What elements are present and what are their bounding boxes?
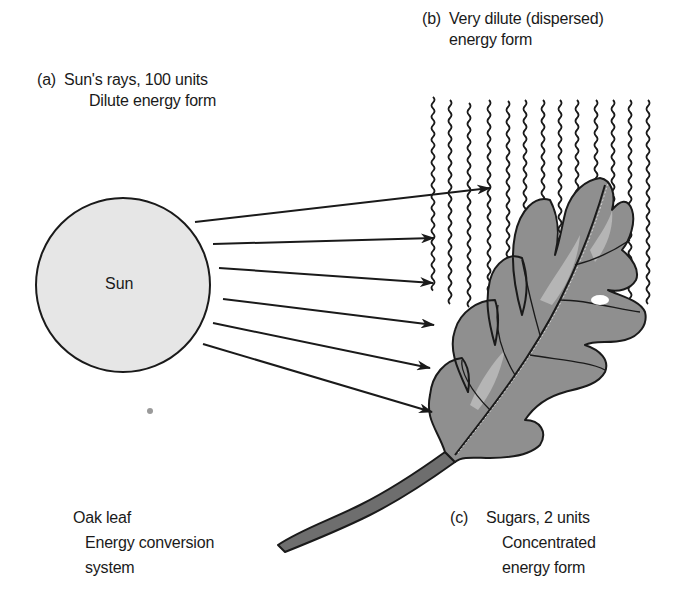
label-oak-line2: Energy conversion	[73, 530, 214, 555]
label-a-tag: (a)	[37, 69, 64, 90]
oak-leaf-illustration	[278, 178, 646, 552]
label-c-line2: Concentrated	[450, 530, 596, 555]
energy-diagram: Sun (b)Very dilute (dispersed) energy fo…	[0, 0, 692, 604]
label-c-line1: Sugars, 2 units	[486, 509, 590, 526]
label-c-line3: energy form	[450, 555, 596, 580]
speck	[147, 408, 153, 414]
label-oak-line1: Oak leaf	[73, 505, 214, 530]
label-a-line1: Sun's rays, 100 units	[64, 71, 208, 88]
label-c-tag: (c)	[450, 505, 486, 530]
label-a-line2: Dilute energy form	[37, 90, 216, 111]
label-a: (a)Sun's rays, 100 units Dilute energy f…	[37, 69, 216, 111]
label-c: (c)Sugars, 2 units Concentrated energy f…	[450, 505, 596, 580]
label-b-line1: Very dilute (dispersed)	[449, 10, 604, 27]
label-oak-line3: system	[73, 555, 214, 580]
label-b-line2: energy form	[422, 29, 604, 50]
label-b-tag: (b)	[422, 8, 449, 29]
sun-label: Sun	[105, 275, 133, 293]
label-b: (b)Very dilute (dispersed) energy form	[422, 8, 604, 50]
label-oak-leaf: Oak leaf Energy conversion system	[73, 505, 214, 580]
